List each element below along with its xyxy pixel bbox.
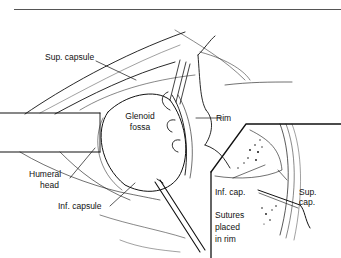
- label-humeral-head-2: head: [40, 180, 59, 190]
- label-sup-cap-2: cap.: [299, 197, 315, 207]
- label-sup-capsule: Sup. capsule: [45, 52, 94, 62]
- label-sutures-1: Sutures: [215, 210, 244, 220]
- label-glenoid-fossa-2: fossa: [121, 122, 159, 132]
- label-sutures-2: placed: [215, 222, 240, 232]
- label-sup-cap-1: Sup.: [299, 187, 317, 197]
- label-humeral-head-1: Humeral: [29, 169, 61, 179]
- label-rim: Rim: [216, 113, 231, 123]
- label-inf-cap: Inf. cap.: [215, 187, 245, 197]
- label-sutures-3: in rim: [215, 234, 236, 244]
- shoulder-illustration: [0, 0, 341, 258]
- label-glenoid-fossa-1: Glenoid: [121, 111, 159, 121]
- label-inf-capsule: Inf. capsule: [58, 201, 101, 211]
